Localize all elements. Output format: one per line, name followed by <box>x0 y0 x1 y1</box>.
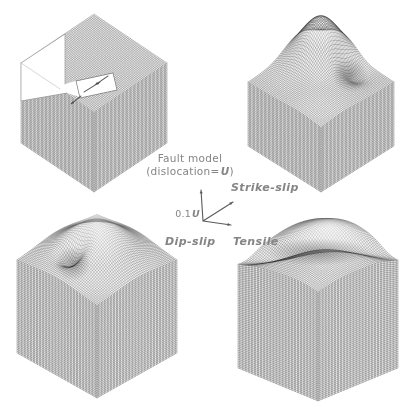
scale-value: 0.1 <box>175 208 191 219</box>
scale-symbol: U <box>192 208 200 219</box>
dip-slip-label: Dip-slip <box>165 235 216 248</box>
dislocation-suffix: ) <box>229 165 233 177</box>
fault-model-title: Fault model <box>158 152 223 164</box>
fault-model-figure: Fault model (dislocation=U) 0.1U Strike-… <box>0 0 415 413</box>
strike-slip-label: Strike-slip <box>231 181 299 194</box>
tensile-label: Tensile <box>233 235 279 248</box>
scale-label: 0.1U <box>156 208 200 219</box>
fault-model-title-line: Fault model <box>128 152 252 165</box>
fault-models-canvas <box>0 0 415 413</box>
dislocation-line: (dislocation=U) <box>128 165 252 178</box>
fault-model-caption: Fault model (dislocation=U) <box>128 152 252 178</box>
dislocation-prefix: (dislocation= <box>146 165 220 177</box>
